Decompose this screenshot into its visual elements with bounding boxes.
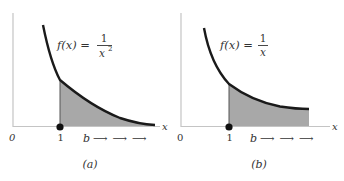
numerator-b: 1 — [260, 32, 267, 44]
panel-b: f(x) = 1 x x 0 1 b ⟶ ⟶ ⟶ (b) — [177, 13, 338, 171]
arrows-to-infinity-b: ⟶ ⟶ ⟶ — [260, 133, 314, 144]
tick-label-one-b: 1 — [227, 132, 233, 143]
tick-label-one-a: 1 — [58, 132, 64, 143]
x-axis-label-b: x — [332, 121, 338, 132]
origin-label-b: 0 — [177, 132, 183, 143]
function-label-b: f(x) = — [219, 38, 253, 52]
shaded-area-a — [60, 80, 155, 126]
point-one-a — [56, 123, 63, 130]
function-label-a: f(x) = — [56, 38, 90, 52]
origin-label-a: 0 — [9, 132, 16, 143]
arrows-to-infinity-a: ⟶ ⟶ ⟶ — [93, 133, 147, 144]
panel-a: f(x) = 1 x 2 x 0 1 b ⟶ ⟶ ⟶ (a) — [9, 13, 168, 171]
numerator-a: 1 — [101, 32, 108, 44]
improper-integral-diagram: f(x) = 1 x 2 x 0 1 b ⟶ ⟶ ⟶ (a) f(x) = 1 … — [0, 0, 344, 181]
limit-variable-b-a: b — [83, 132, 90, 145]
limit-variable-b-b: b — [250, 132, 257, 145]
point-one-b — [225, 123, 232, 130]
exponent-a: 2 — [108, 45, 112, 53]
denominator-b: x — [260, 46, 266, 58]
caption-b: (b) — [251, 158, 267, 171]
x-axis-label-a: x — [162, 121, 168, 132]
caption-a: (a) — [82, 158, 97, 171]
denominator-a: x — [99, 47, 105, 59]
